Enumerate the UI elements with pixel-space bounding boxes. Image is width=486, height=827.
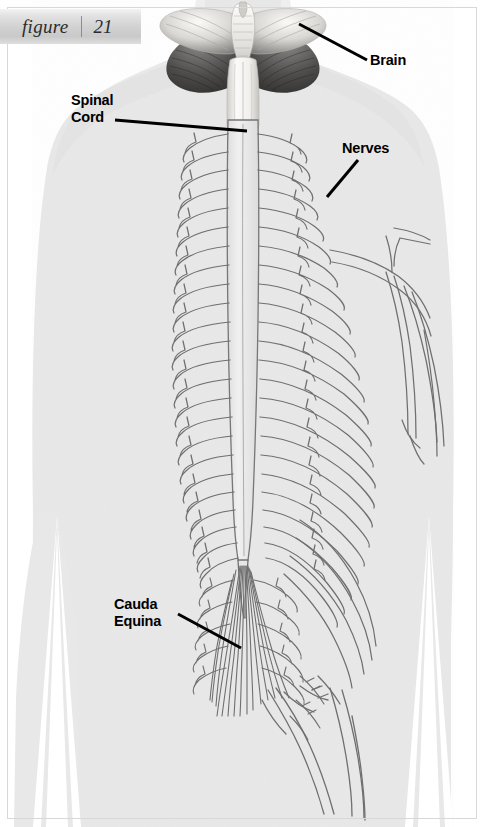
- figure-panel: figure 21 Brain Spinal Cord Nerves Cauda…: [0, 0, 486, 827]
- callout-label-nerves: Nerves: [342, 140, 389, 157]
- figure-label: figure: [22, 16, 68, 38]
- figure-number-tab: figure 21: [0, 9, 141, 44]
- callout-label-brain: Brain: [370, 52, 406, 69]
- callout-label-spinal-cord: Spinal Cord: [71, 92, 113, 125]
- figure-tab-divider: [81, 16, 82, 37]
- callout-label-cauda-equina: Cauda Equina: [114, 596, 161, 629]
- figure-number: 21: [93, 16, 112, 38]
